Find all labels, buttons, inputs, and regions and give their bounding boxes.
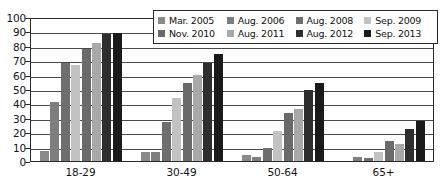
legend-label: Aug. 2006 (238, 16, 285, 26)
bar (252, 157, 261, 161)
legend-swatch-icon (227, 17, 234, 24)
legend-swatch-icon (364, 17, 371, 24)
bar (71, 65, 80, 161)
x-axis: 18-2930-4950-6465+ (30, 164, 434, 183)
bar (92, 43, 101, 161)
x-tick-label: 50-64 (232, 166, 333, 178)
legend-label: Nov. 2010 (169, 29, 215, 39)
legend-item[interactable]: Sep. 2013 (364, 27, 433, 40)
legend-item[interactable]: Aug. 2011 (227, 27, 296, 40)
bar (151, 152, 160, 161)
bar (203, 63, 212, 161)
legend-swatch-icon (296, 30, 303, 37)
legend-label: Mar. 2005 (169, 16, 214, 26)
bar (50, 102, 59, 161)
bar (183, 83, 192, 161)
bar (214, 54, 223, 161)
bar (353, 157, 362, 161)
legend-swatch-icon (158, 17, 165, 24)
bar (304, 90, 313, 161)
bar (40, 151, 49, 161)
bar (364, 158, 373, 161)
legend-label: Aug. 2011 (238, 29, 285, 39)
bar (113, 33, 122, 161)
bar (395, 144, 404, 161)
legend-item[interactable]: Nov. 2010 (158, 27, 227, 40)
legend-row-2: Nov. 2010Aug. 2011Aug. 2012Sep. 2013 (158, 27, 433, 40)
x-tick-label: 18-29 (30, 166, 131, 178)
bar-chart: 1009080706050403020100 18-2930-4950-6465… (0, 0, 444, 183)
legend-swatch-icon (364, 30, 371, 37)
y-tick-mark (25, 162, 30, 163)
legend-item[interactable]: Sep. 2009 (364, 14, 433, 27)
bar (374, 152, 383, 161)
chart-legend: Mar. 2005Aug. 2006Aug. 2008Sep. 2009 Nov… (153, 10, 438, 44)
legend-item[interactable]: Aug. 2008 (296, 14, 365, 27)
bar (416, 121, 425, 161)
bar (172, 98, 181, 161)
legend-label: Aug. 2012 (307, 29, 354, 39)
bar-group-18-29 (31, 19, 132, 161)
legend-swatch-icon (296, 17, 303, 24)
x-tick-label: 30-49 (131, 166, 232, 178)
legend-swatch-icon (227, 30, 234, 37)
bar (61, 63, 70, 161)
legend-row-1: Mar. 2005Aug. 2006Aug. 2008Sep. 2009 (158, 14, 433, 27)
bar (162, 122, 171, 161)
legend-label: Sep. 2013 (375, 29, 421, 39)
legend-item[interactable]: Aug. 2012 (296, 27, 365, 40)
x-tick-label: 65+ (333, 166, 434, 178)
legend-label: Sep. 2009 (375, 16, 421, 26)
bar (273, 131, 282, 161)
bar (102, 34, 111, 161)
bar (315, 83, 324, 161)
bar (405, 129, 414, 161)
bar (263, 148, 272, 161)
bar (385, 141, 394, 161)
bar (294, 109, 303, 161)
bar (284, 113, 293, 161)
legend-label: Aug. 2008 (307, 16, 354, 26)
legend-item[interactable]: Mar. 2005 (158, 14, 227, 27)
bar (141, 152, 150, 161)
bar (82, 49, 91, 161)
bar (242, 155, 251, 161)
legend-swatch-icon (158, 30, 165, 37)
legend-item[interactable]: Aug. 2006 (227, 14, 296, 27)
bar (193, 75, 202, 161)
